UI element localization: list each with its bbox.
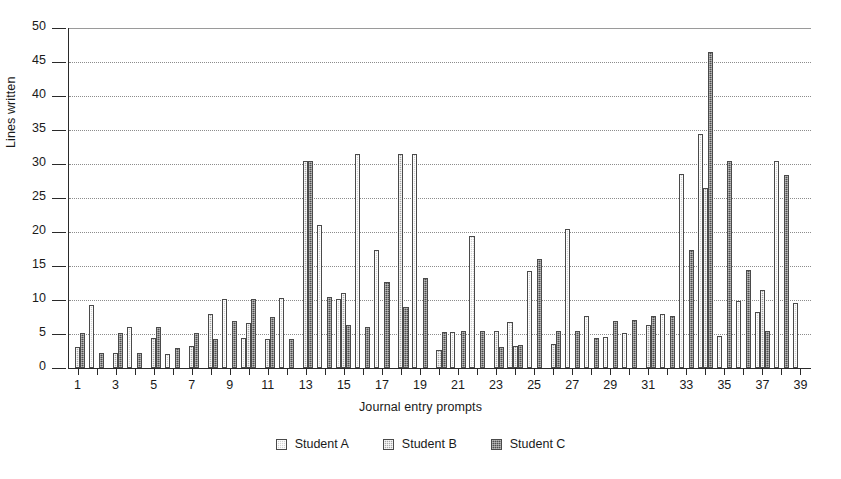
bar (423, 278, 428, 368)
bar (403, 307, 408, 368)
bar (793, 303, 798, 368)
x-axis-tick (800, 368, 801, 375)
bar (670, 316, 675, 368)
x-axis-tick (173, 368, 174, 375)
x-axis-tick (686, 368, 687, 375)
x-axis-tick (705, 368, 706, 375)
bar (575, 331, 580, 368)
x-axis-tick (477, 368, 478, 375)
chart-legend: Student A Student B Student C (0, 437, 841, 451)
bar (679, 174, 684, 368)
bar (232, 321, 237, 368)
legend-swatch-icon (491, 439, 502, 450)
x-axis-tick-label: 15 (329, 378, 359, 392)
x-axis-tick (78, 368, 79, 375)
bar (556, 331, 561, 368)
bar (622, 333, 627, 368)
legend-item-student-b[interactable]: Student B (383, 437, 457, 451)
bar (469, 236, 474, 368)
legend-item-student-c[interactable]: Student C (491, 437, 566, 451)
legend-item-student-a[interactable]: Student A (276, 437, 349, 451)
bar (89, 305, 94, 368)
bar (346, 325, 351, 368)
x-axis-tick (306, 368, 307, 375)
bar (80, 333, 85, 368)
bar (194, 333, 199, 368)
bar (736, 301, 741, 368)
x-axis-tick-label: 17 (367, 378, 397, 392)
bar (156, 327, 161, 368)
bar (222, 299, 227, 368)
x-axis-tick-label: 27 (557, 378, 587, 392)
x-axis-tick (534, 368, 535, 375)
x-axis-tick (344, 368, 345, 375)
x-axis-tick (401, 368, 402, 375)
x-axis-tick (154, 368, 155, 375)
bar (613, 321, 618, 368)
x-axis-tick-label: 13 (291, 378, 321, 392)
bar (384, 282, 389, 368)
bar (746, 270, 751, 368)
bar (518, 345, 523, 368)
x-axis-tick (268, 368, 269, 375)
x-axis-tick-label: 25 (519, 378, 549, 392)
bar (565, 229, 570, 368)
bar (784, 175, 789, 368)
bar-series-group (0, 0, 841, 368)
x-axis-tick (572, 368, 573, 375)
bar (327, 297, 332, 368)
x-axis-tick (135, 368, 136, 375)
bar (527, 271, 532, 368)
bar (660, 314, 665, 368)
bar (289, 339, 294, 368)
x-axis-tick-label: 9 (215, 378, 245, 392)
x-axis-tick-label: 37 (747, 378, 777, 392)
x-axis-tick (648, 368, 649, 375)
x-axis-tick (553, 368, 554, 375)
x-axis-tick (496, 368, 497, 375)
bar (603, 337, 608, 368)
x-axis-tick (382, 368, 383, 375)
x-axis-tick (230, 368, 231, 375)
bar (118, 333, 123, 368)
x-axis-tick (420, 368, 421, 375)
x-axis-tick-label: 1 (63, 378, 93, 392)
bar (689, 250, 694, 368)
x-axis-tick-label: 19 (405, 378, 435, 392)
bar (365, 327, 370, 368)
bar (461, 331, 466, 368)
x-axis-title: Journal entry prompts (0, 400, 841, 414)
legend-swatch-icon (383, 439, 394, 450)
bar (537, 259, 542, 368)
x-axis-tick-label: 31 (633, 378, 663, 392)
bar (355, 154, 360, 368)
x-axis-tick-label: 5 (139, 378, 169, 392)
x-axis-tick (781, 368, 782, 375)
bar (594, 338, 599, 368)
bar (412, 154, 417, 368)
bar (632, 320, 637, 368)
bar (774, 161, 779, 368)
x-axis-tick (211, 368, 212, 375)
x-axis-tick-label: 33 (671, 378, 701, 392)
bar (717, 336, 722, 368)
bar (584, 316, 589, 368)
chart-figure: Lines written 05101520253035404550 13579… (0, 0, 841, 479)
bar (727, 161, 732, 368)
bar (99, 353, 104, 368)
x-axis-tick (743, 368, 744, 375)
x-axis-tick (116, 368, 117, 375)
x-axis-tick (610, 368, 611, 375)
bar (308, 161, 313, 368)
legend-label: Student C (510, 437, 566, 451)
x-axis-tick-label: 7 (177, 378, 207, 392)
x-axis-tick (249, 368, 250, 375)
x-axis-tick (363, 368, 364, 375)
x-axis-tick-label: 21 (443, 378, 473, 392)
x-axis-tick (325, 368, 326, 375)
x-axis-tick-label: 35 (709, 378, 739, 392)
bar (251, 299, 256, 368)
bar (165, 354, 170, 368)
bar (765, 331, 770, 368)
y-axis-tick (52, 368, 66, 369)
